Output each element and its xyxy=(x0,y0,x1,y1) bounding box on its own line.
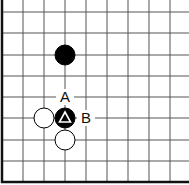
point-label-b: B xyxy=(81,109,91,126)
white-stone xyxy=(34,108,54,128)
black-stone xyxy=(55,45,75,65)
white-stone xyxy=(55,130,75,150)
go-board: AB xyxy=(0,0,189,185)
point-label-a: A xyxy=(60,88,70,105)
board-grid xyxy=(1,0,189,183)
